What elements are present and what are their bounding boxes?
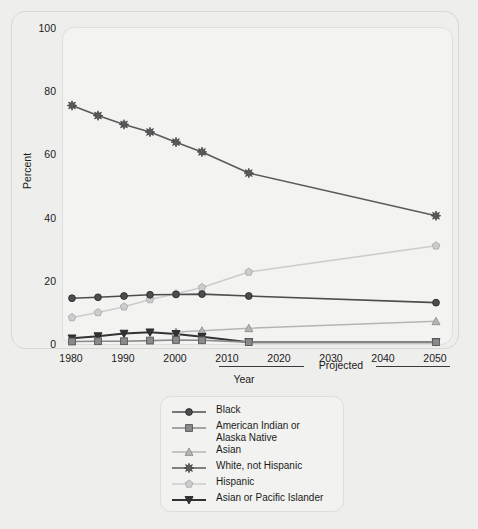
- y-tick-80: 80: [22, 85, 56, 97]
- legend-item[interactable]: Asian or Pacific Islander: [161, 492, 343, 507]
- legend-item[interactable]: Black: [161, 404, 343, 419]
- x-tick-1990: 1990: [100, 352, 146, 364]
- x-axis-title: Year: [224, 373, 264, 385]
- star-icon: [170, 461, 208, 475]
- y-axis-title: Percent: [21, 136, 33, 206]
- projected-range-line: [376, 366, 450, 367]
- year-range-line: [219, 366, 304, 367]
- chart-legend: Black American Indian or Alaska Native A…: [160, 396, 344, 512]
- plot-svg: [63, 28, 454, 346]
- y-tick-0: 0: [22, 338, 56, 350]
- pentagon-icon: [170, 477, 208, 491]
- y-tick-40: 40: [22, 212, 56, 224]
- x-tick-2000: 2000: [152, 352, 198, 364]
- legend-item[interactable]: Asian: [161, 444, 343, 459]
- legend-item[interactable]: Hispanic: [161, 476, 343, 491]
- plot-area: [62, 27, 453, 345]
- projected-annotation-label: Projected: [308, 359, 374, 371]
- legend-item[interactable]: White, not Hispanic: [161, 460, 343, 475]
- triangle-down-icon: [170, 493, 208, 507]
- x-tick-2050: 2050: [412, 352, 458, 364]
- triangle-up-icon: [170, 445, 208, 459]
- legend-label: American Indian or Alaska Native: [208, 420, 300, 443]
- legend-label: Black: [208, 404, 240, 416]
- chart-figure: 100 80 60 40 20 0 Percent 1980 1990 2000…: [0, 0, 478, 529]
- y-tick-20: 20: [22, 275, 56, 287]
- x-tick-1980: 1980: [48, 352, 94, 364]
- legend-label: Asian or Pacific Islander: [208, 492, 323, 504]
- circle-icon: [170, 405, 208, 419]
- legend-label: White, not Hispanic: [208, 460, 302, 472]
- y-tick-100: 100: [22, 22, 56, 34]
- legend-label: Hispanic: [208, 476, 254, 488]
- square-icon: [170, 421, 208, 435]
- legend-label: Asian: [208, 444, 241, 456]
- x-tick-2020: 2020: [256, 352, 302, 364]
- legend-item[interactable]: American Indian or Alaska Native: [161, 420, 343, 443]
- x-tick-2010: 2010: [204, 352, 250, 364]
